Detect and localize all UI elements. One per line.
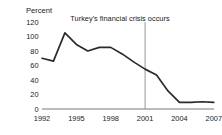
y-tick-label-120: 120	[26, 18, 38, 27]
y-tick-label-0: 0	[34, 105, 38, 114]
chart-container: Percent 120 100 80 60 40 20 0 Turkey's f…	[0, 0, 222, 135]
y-tick-label-20: 20	[30, 90, 38, 99]
y-tick-label-60: 60	[30, 61, 38, 70]
line-chart: Percent 120 100 80 60 40 20 0 Turkey's f…	[0, 0, 222, 135]
x-tick-label-2001: 2001	[137, 114, 153, 123]
x-tick-label-1992: 1992	[34, 114, 50, 123]
y-tick-label-80: 80	[30, 47, 38, 56]
x-tick-label-2007: 2007	[206, 114, 222, 123]
y-tick-label-40: 40	[30, 76, 38, 85]
x-tick-label-2004: 2004	[171, 114, 187, 123]
x-tick-label-1998: 1998	[102, 114, 118, 123]
y-axis-title: Percent	[26, 6, 53, 15]
data-series-line-percent	[42, 33, 214, 103]
y-tick-label-100: 100	[26, 32, 38, 41]
x-tick-label-1995: 1995	[68, 114, 84, 123]
crisis-annotation-label: Turkey's financial crisis occurs	[70, 14, 170, 23]
